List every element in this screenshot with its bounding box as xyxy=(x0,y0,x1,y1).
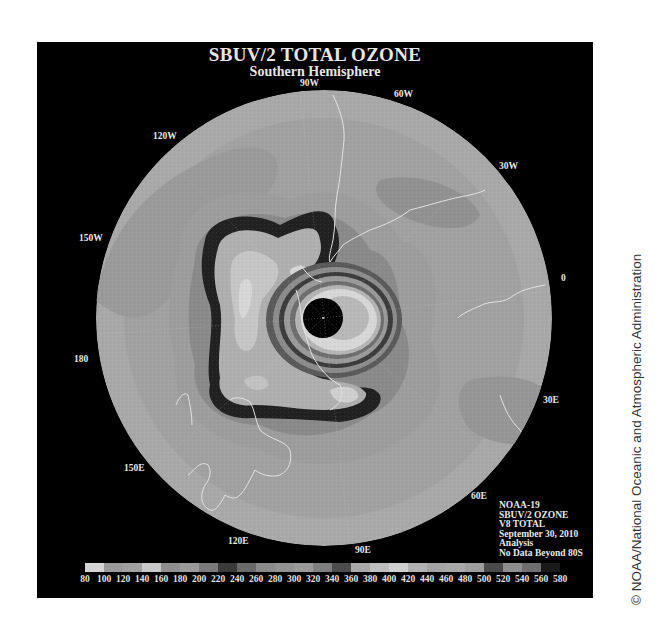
color-tick-label: 400 xyxy=(382,574,396,584)
color-tick-label: 480 xyxy=(458,574,472,584)
color-swatch xyxy=(541,563,560,572)
color-swatch xyxy=(484,563,503,572)
color-tick-label: 280 xyxy=(268,574,282,584)
color-swatch xyxy=(389,563,408,572)
lon-label-60e: 60E xyxy=(471,491,487,501)
color-swatch xyxy=(313,563,332,572)
color-tick-label: 240 xyxy=(230,574,244,584)
lon-label-60w: 60W xyxy=(394,89,413,99)
color-tick-label: 120 xyxy=(116,574,130,584)
color-tick-label: 160 xyxy=(154,574,168,584)
info-coverage-note: No Data Beyond 80S xyxy=(499,549,583,559)
color-tick-label: 180 xyxy=(173,574,187,584)
color-swatch xyxy=(275,563,294,572)
info-block: NOAA-19 SBUV/2 OZONE V8 TOTAL September … xyxy=(499,501,583,559)
color-tick-label: 440 xyxy=(420,574,434,584)
color-tick-label: 220 xyxy=(211,574,225,584)
color-tick-label: 100 xyxy=(97,574,111,584)
color-swatch xyxy=(332,563,351,572)
lon-label-0: 0 xyxy=(561,273,566,283)
color-tick-label: 520 xyxy=(496,574,510,584)
color-tick-label: 360 xyxy=(344,574,358,584)
color-tick-label: 380 xyxy=(363,574,377,584)
color-swatch xyxy=(104,563,123,572)
color-swatch xyxy=(237,563,256,572)
color-scale-bar xyxy=(85,563,560,572)
lon-label-90e: 90E xyxy=(355,545,371,555)
color-tick-label: 260 xyxy=(249,574,263,584)
ozone-field xyxy=(90,90,560,546)
color-tick-label: 580 xyxy=(553,574,567,584)
lon-label-120w: 120W xyxy=(153,131,177,141)
color-tick-label: 500 xyxy=(477,574,491,584)
color-swatch xyxy=(522,563,541,572)
lon-label-30w: 30W xyxy=(499,161,518,171)
color-swatch xyxy=(446,563,465,572)
color-swatch xyxy=(85,563,104,572)
color-scale-ticks: 8010012014016018020022024026028030032034… xyxy=(75,574,595,586)
color-tick-label: 140 xyxy=(135,574,149,584)
color-tick-label: 300 xyxy=(287,574,301,584)
lon-label-150w: 150W xyxy=(79,233,103,243)
lon-label-150e: 150E xyxy=(124,463,145,473)
color-swatch xyxy=(161,563,180,572)
color-swatch xyxy=(465,563,484,572)
lon-label-90w: 90W xyxy=(300,78,319,88)
color-swatch xyxy=(427,563,446,572)
color-tick-label: 200 xyxy=(192,574,206,584)
color-swatch xyxy=(503,563,522,572)
color-swatch xyxy=(408,563,427,572)
color-tick-label: 80 xyxy=(80,574,90,584)
image-credit: © NOAA/National Oceanic and Atmospheric … xyxy=(629,254,644,605)
color-swatch xyxy=(180,563,199,572)
color-tick-label: 340 xyxy=(325,574,339,584)
color-swatch xyxy=(351,563,370,572)
lon-label-120e: 120E xyxy=(228,536,249,546)
color-tick-label: 460 xyxy=(439,574,453,584)
lon-label-180: 180 xyxy=(74,354,88,364)
color-swatch xyxy=(142,563,161,572)
color-swatch xyxy=(294,563,313,572)
color-tick-label: 560 xyxy=(534,574,548,584)
color-tick-label: 420 xyxy=(401,574,415,584)
color-swatch xyxy=(199,563,218,572)
color-swatch xyxy=(123,563,142,572)
color-swatch xyxy=(256,563,275,572)
color-swatch xyxy=(218,563,237,572)
color-swatch xyxy=(370,563,389,572)
color-tick-label: 320 xyxy=(306,574,320,584)
color-tick-label: 540 xyxy=(515,574,529,584)
lon-label-30e: 30E xyxy=(543,395,559,405)
